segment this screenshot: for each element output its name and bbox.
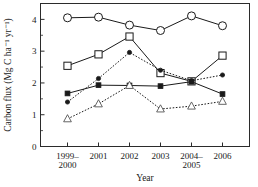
- x-tick-label: 2005: [183, 160, 202, 170]
- marker-circle-filled: [220, 73, 224, 77]
- carbon-flux-chart: 01234 1999–20002001200220032004–20052006…: [0, 0, 258, 187]
- marker-circle-open: [95, 13, 103, 21]
- y-axis-title: Carbon flux (Mg C ha⁻¹ yr⁻¹): [3, 18, 14, 132]
- y-tick-label: 1: [32, 110, 37, 120]
- marker-triangle-open: [64, 115, 72, 122]
- marker-square-filled: [96, 83, 101, 88]
- series-line: [68, 82, 223, 94]
- y-tick-label: 3: [32, 46, 37, 56]
- marker-circle-open: [219, 22, 227, 30]
- marker-circle-filled: [65, 100, 69, 104]
- marker-square-filled: [65, 91, 70, 96]
- marker-square-open: [126, 33, 133, 40]
- series-filled-square-solid: [65, 79, 225, 96]
- marker-triangle-open: [188, 102, 196, 109]
- x-tick-label: 2006: [214, 151, 233, 161]
- y-tick-label: 2: [32, 78, 37, 88]
- marker-circle-open: [157, 27, 165, 35]
- x-tick-label: 2000: [59, 160, 78, 170]
- marker-square-filled: [158, 84, 163, 89]
- marker-circle-filled: [158, 68, 162, 72]
- series-line: [68, 85, 223, 118]
- series-line: [68, 37, 223, 82]
- x-tick-label: 2002: [121, 151, 139, 161]
- series-open-circle-solid: [64, 12, 227, 35]
- y-tick-label: 4: [32, 15, 37, 25]
- marker-circle-filled: [127, 50, 131, 54]
- x-tick-label: 2001: [90, 151, 108, 161]
- data-series-group: [64, 12, 227, 122]
- x-tick-label: 2003: [152, 151, 171, 161]
- marker-triangle-open: [219, 97, 227, 104]
- x-axis-title: Year: [136, 173, 154, 183]
- marker-circle-open: [64, 14, 72, 22]
- series-line: [68, 16, 223, 31]
- marker-circle-open: [188, 12, 196, 20]
- marker-square-open: [64, 62, 71, 69]
- series-open-square-solid: [64, 33, 226, 85]
- marker-square-filled: [189, 79, 194, 84]
- marker-square-open: [95, 51, 102, 58]
- series-filled-circle-dotted: [65, 50, 224, 104]
- series-line: [68, 52, 223, 102]
- marker-circle-open: [126, 21, 134, 29]
- marker-square-filled: [220, 92, 225, 97]
- marker-square-open: [219, 52, 226, 59]
- series-open-triangle-dotted: [64, 81, 227, 122]
- chart-svg: 01234 1999–20002001200220032004–20052006…: [0, 0, 258, 187]
- y-tick-label: 0: [32, 142, 37, 152]
- y-axis: 01234: [32, 15, 45, 152]
- marker-triangle-open: [95, 100, 103, 107]
- marker-circle-filled: [96, 76, 100, 80]
